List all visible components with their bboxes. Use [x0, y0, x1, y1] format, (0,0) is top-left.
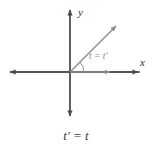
figure-container: y x t = t' t' = t: [0, 0, 152, 153]
coordinate-axes-figure: y x t = t' t' = t: [0, 0, 152, 153]
diagonal-ray: [70, 26, 116, 72]
bottom-label: t' = t: [63, 128, 89, 143]
angle-arc-icon: [80, 62, 84, 72]
x-axis-label: x: [139, 56, 145, 68]
y-axis-label: y: [77, 6, 83, 18]
ray-label: t = t': [89, 51, 108, 61]
